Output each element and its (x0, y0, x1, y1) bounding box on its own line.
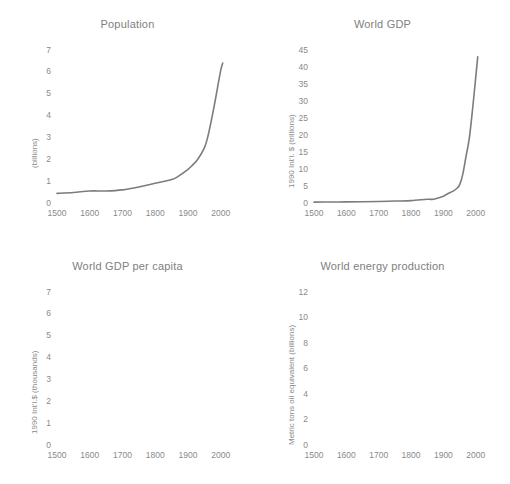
y-axis-tick-label: 4 (31, 353, 51, 362)
chart-series-group (314, 50, 479, 203)
x-axis-tick-label: 1700 (108, 209, 136, 218)
y-axis-tick-label: 0 (288, 441, 308, 450)
x-axis-tick-label: 1700 (365, 209, 393, 218)
x-axis-tick-label: 1700 (365, 451, 393, 460)
y-axis-tick-label: 6 (288, 364, 308, 373)
x-axis-tick-label: 1600 (332, 209, 360, 218)
y-axis-tick-label: 4 (31, 111, 51, 120)
chart-panel-world-energy-production: World energy production Metric tons oil … (255, 242, 510, 484)
y-axis-tick-label: 15 (288, 148, 308, 157)
y-axis-tick-label: 0 (31, 199, 51, 208)
y-axis-tick-label: 40 (288, 63, 308, 72)
plot-area (314, 50, 479, 203)
y-axis-tick-label: 0 (288, 199, 308, 208)
chart-title: World energy production (255, 260, 510, 272)
y-axis-tick-label: 3 (31, 375, 51, 384)
y-axis-tick-label: 35 (288, 80, 308, 89)
series-main-series (57, 63, 223, 193)
y-axis-tick-label: 6 (31, 309, 51, 318)
four-panel-chart-figure: Population (billions) 012345671500160017… (0, 0, 510, 484)
y-axis-tick-label: 0 (31, 441, 51, 450)
chart-series-group (57, 50, 224, 203)
y-axis-tick-label: 10 (288, 165, 308, 174)
chart-panel-world-gdp-per-capita: World GDP per capita 1990 Int'l.$ (thous… (0, 242, 255, 484)
chart-title: Population (0, 18, 255, 30)
y-axis-tick-label: 30 (288, 97, 308, 106)
series-main-series (314, 57, 478, 202)
chart-panel-population: Population (billions) 012345671500160017… (0, 0, 255, 242)
chart-title: World GDP (255, 18, 510, 30)
x-axis-tick-label: 1800 (397, 209, 425, 218)
y-axis-tick-label: 45 (288, 46, 308, 55)
y-axis-tick-label: 5 (31, 331, 51, 340)
y-axis-tick-label: 5 (288, 182, 308, 191)
x-axis-tick-label: 1900 (429, 209, 457, 218)
y-axis-tick-label: 6 (31, 67, 51, 76)
x-axis-tick-label: 1600 (332, 451, 360, 460)
y-axis-tick-label: 2 (31, 397, 51, 406)
y-axis-tick-label: 7 (31, 288, 51, 297)
x-axis-tick-label: 1800 (397, 451, 425, 460)
x-axis-tick-label: 1500 (300, 451, 328, 460)
x-axis-tick-label: 1800 (141, 451, 169, 460)
chart-title: World GDP per capita (0, 260, 255, 272)
plot-area (57, 50, 224, 203)
y-axis-tick-label: 20 (288, 131, 308, 140)
x-axis-tick-label: 1500 (300, 209, 328, 218)
y-axis-tick-label: 4 (288, 390, 308, 399)
chart-panel-world-gdp: World GDP 1990 Int'l. $ (trillions) 0510… (255, 0, 510, 242)
x-axis-tick-label: 1800 (141, 209, 169, 218)
x-axis-tick-label: 2000 (207, 451, 235, 460)
y-axis-tick-label: 7 (31, 46, 51, 55)
y-axis-tick-label: 1 (31, 419, 51, 428)
y-axis-tick-label: 2 (288, 415, 308, 424)
x-axis-tick-label: 1900 (174, 451, 202, 460)
x-axis-tick-label: 2000 (462, 451, 490, 460)
x-axis-tick-label: 1600 (76, 209, 104, 218)
x-axis-tick-label: 1500 (43, 209, 71, 218)
y-axis-tick-label: 12 (288, 288, 308, 297)
x-axis-tick-label: 1900 (429, 451, 457, 460)
x-axis-tick-label: 1900 (174, 209, 202, 218)
y-axis-tick-label: 3 (31, 133, 51, 142)
x-axis-tick-label: 2000 (207, 209, 235, 218)
y-axis-tick-label: 25 (288, 114, 308, 123)
y-axis-tick-label: 5 (31, 89, 51, 98)
y-axis-tick-label: 2 (31, 155, 51, 164)
x-axis-tick-label: 2000 (462, 209, 490, 218)
y-axis-tick-label: 10 (288, 313, 308, 322)
x-axis-tick-label: 1500 (43, 451, 71, 460)
x-axis-tick-label: 1700 (108, 451, 136, 460)
y-axis-tick-label: 8 (288, 339, 308, 348)
x-axis-tick-label: 1600 (76, 451, 104, 460)
y-axis-tick-label: 1 (31, 177, 51, 186)
